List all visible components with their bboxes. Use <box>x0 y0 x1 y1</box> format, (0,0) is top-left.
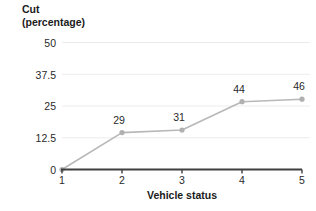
y-tick-label-25: 25 <box>12 100 56 112</box>
x-axis-title: Vehicle status <box>102 189 262 201</box>
axes <box>61 170 302 174</box>
gridlines <box>62 43 310 138</box>
data-label-5: 46 <box>286 80 312 92</box>
x-tick-label-2: 2 <box>109 174 135 186</box>
data-point-4 <box>239 99 244 104</box>
series-line <box>62 99 302 169</box>
data-series-cut <box>59 97 304 172</box>
x-tick-label-1: 1 <box>49 174 75 186</box>
x-tick-label-5: 5 <box>289 174 315 186</box>
data-point-5 <box>299 97 304 102</box>
data-label-2: 29 <box>106 114 132 126</box>
x-tick-label-4: 4 <box>229 174 255 186</box>
line-chart: Cut (percentage) 50 37.5 2 <box>0 0 316 211</box>
x-tick-label-3: 3 <box>169 174 195 186</box>
data-label-4: 44 <box>226 83 252 95</box>
data-point-3 <box>179 127 184 132</box>
y-tick-label-50: 50 <box>12 37 56 49</box>
y-tick-label-12-5: 12.5 <box>12 132 56 144</box>
y-tick-label-37-5: 37.5 <box>12 69 56 81</box>
data-point-2 <box>119 130 124 135</box>
data-label-3: 31 <box>166 111 192 123</box>
